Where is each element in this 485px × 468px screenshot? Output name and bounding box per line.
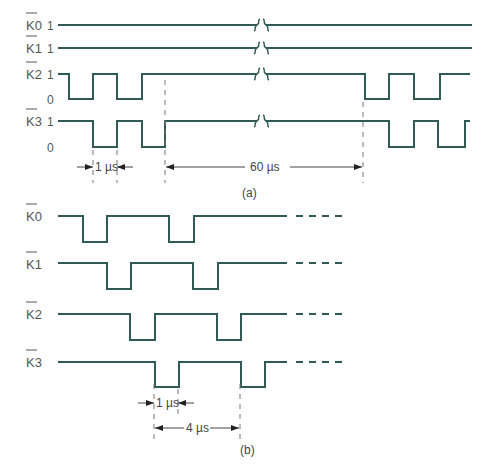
dimension-1us-a: 1 µs <box>77 160 133 174</box>
waveform-k2-b <box>58 314 346 340</box>
signal-label-k2-a: K2 1 0 <box>26 62 54 107</box>
dimension-4us: 4 µs <box>155 421 239 435</box>
dimension-60us: 60 µs <box>166 160 362 174</box>
caption-b: (b) <box>240 443 255 457</box>
waveform-k1-b <box>58 263 346 289</box>
signal-label-k1-b: K1 <box>26 252 42 272</box>
svg-text:4 µs: 4 µs <box>186 421 209 435</box>
timing-diagram: K0 1 K1 1 K2 1 0 K3 1 0 <box>0 0 485 468</box>
svg-text:1: 1 <box>47 42 54 56</box>
waveform-k1-a <box>58 42 472 54</box>
waveform-k2-a <box>58 68 470 99</box>
signal-label-k1-a: K1 1 <box>26 36 54 56</box>
svg-text:K1: K1 <box>26 41 42 56</box>
signal-label-k0-b: K0 <box>26 204 42 224</box>
svg-text:1 µs: 1 µs <box>156 396 179 410</box>
svg-text:1 µs: 1 µs <box>95 160 118 174</box>
signal-label-k2-b: K2 <box>26 302 42 322</box>
svg-text:K1: K1 <box>26 257 42 272</box>
signal-label-k3-a: K3 1 0 <box>26 109 54 155</box>
signal-label-k3-b: K3 <box>26 350 42 370</box>
part-a: K0 1 K1 1 K2 1 0 K3 1 0 <box>26 13 472 200</box>
svg-text:K0: K0 <box>26 18 42 33</box>
signal-label-k0-a: K0 1 <box>26 13 54 33</box>
waveform-k0-b <box>58 216 346 242</box>
svg-text:K0: K0 <box>26 209 42 224</box>
svg-text:0: 0 <box>47 141 54 155</box>
part-b: K0 K1 K2 K3 <box>26 204 346 457</box>
svg-text:1: 1 <box>47 19 54 33</box>
svg-text:K3: K3 <box>26 114 42 129</box>
waveform-k3-b <box>58 362 346 387</box>
svg-text:1: 1 <box>47 115 54 129</box>
waveform-k3-a <box>58 115 470 147</box>
svg-text:K2: K2 <box>26 307 42 322</box>
svg-text:K2: K2 <box>26 67 42 82</box>
svg-text:1: 1 <box>47 68 54 82</box>
svg-text:K3: K3 <box>26 355 42 370</box>
caption-a: (a) <box>242 186 257 200</box>
waveform-k0-a <box>58 19 472 31</box>
dimension-1us-b: 1 µs <box>138 396 194 410</box>
svg-text:0: 0 <box>47 93 54 107</box>
svg-text:60 µs: 60 µs <box>250 160 280 174</box>
